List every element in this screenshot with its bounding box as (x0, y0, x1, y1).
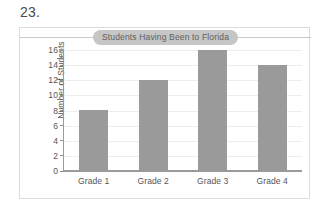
y-axis-tick-label: 0 (53, 166, 58, 176)
y-axis-tick: 16 (48, 45, 63, 55)
y-axis-tick: 2 (53, 151, 63, 161)
y-axis-tick-label: 12 (48, 75, 58, 85)
chart-title: Students Having Been to Florida (93, 30, 238, 45)
bar-slot (183, 50, 243, 170)
y-axis-tick: 8 (53, 106, 63, 116)
y-axis-tick-label: 8 (53, 106, 58, 116)
bar-slot (243, 50, 303, 170)
y-axis-tick: 14 (48, 60, 63, 70)
bar-slot (124, 50, 184, 170)
bar-grade-1 (79, 110, 108, 170)
y-axis-tick: 4 (53, 136, 63, 146)
worksheet-page: 23. Students Having Been to Florida Numb… (0, 0, 326, 210)
bars-layer (64, 50, 302, 170)
y-axis-tick: 6 (53, 121, 63, 131)
y-axis-tick: 10 (48, 90, 63, 100)
x-axis-label: Grade 1 (64, 174, 124, 188)
bar-grade-4 (258, 65, 287, 170)
plot-area: 1614121086420 (63, 50, 302, 171)
bar-grade-2 (139, 80, 168, 170)
x-axis-line (63, 170, 302, 171)
chart-frame: Students Having Been to Florida Number o… (19, 27, 310, 199)
y-axis-tick-label: 2 (53, 151, 58, 161)
title-rule-right (238, 37, 311, 38)
y-axis-tick-label: 14 (48, 60, 58, 70)
y-axis-tick-label: 16 (48, 45, 58, 55)
bar-slot (64, 50, 124, 170)
gridline (63, 171, 302, 172)
bar-grade-3 (198, 50, 227, 170)
y-axis-tick: 12 (48, 75, 63, 85)
y-axis-tick: 0 (53, 166, 63, 176)
y-axis-tick-label: 10 (48, 90, 58, 100)
x-axis-labels: Grade 1Grade 2Grade 3Grade 4 (64, 174, 302, 188)
y-axis-tick-label: 4 (53, 136, 58, 146)
x-axis-label: Grade 3 (183, 174, 243, 188)
x-axis-label: Grade 4 (243, 174, 303, 188)
y-axis-tick-label: 6 (53, 121, 58, 131)
problem-number: 23. (20, 5, 40, 19)
x-axis-label: Grade 2 (124, 174, 184, 188)
